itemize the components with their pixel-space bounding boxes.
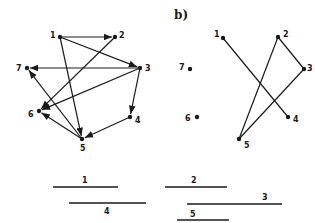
graph-b-node-1 — [221, 36, 225, 40]
graph-a-node-3 — [138, 66, 142, 70]
interval-label-4: 4 — [104, 207, 110, 216]
graph-b-edge-2-5 — [239, 37, 278, 139]
graph-b-node-label-3: 3 — [307, 64, 313, 73]
graph-b-node-label-2: 2 — [283, 30, 289, 39]
graph-a-node-2 — [113, 35, 117, 39]
interval-label-2: 2 — [191, 176, 197, 185]
graph-a-node-6 — [37, 109, 41, 113]
graph-a-node-1 — [58, 35, 62, 39]
graph-a-node-7 — [25, 66, 29, 70]
graph-a-edge-5-6 — [42, 113, 82, 139]
graph-a-node-label-1: 1 — [50, 31, 56, 40]
graph-b-node-2 — [276, 35, 280, 39]
graph-b-node-4 — [286, 115, 290, 119]
graph-a-node-label-6: 6 — [28, 110, 34, 119]
interval-diagram: 14235 — [53, 176, 282, 220]
interval-label-1: 1 — [82, 176, 88, 185]
graph-b-node-label-7: 7 — [179, 63, 185, 72]
panel-b-label: b) — [174, 8, 188, 22]
graph-a-node-4 — [128, 115, 132, 119]
graph-b-node-label-1: 1 — [214, 30, 220, 39]
graph-b-edge-2-3 — [278, 37, 304, 69]
graph-b-node-5 — [237, 137, 241, 141]
graph-a-edge-1-3 — [60, 37, 137, 67]
graph-a-node-label-7: 7 — [16, 64, 22, 73]
graph-a-node-5 — [80, 137, 84, 141]
graph-a-edge-1-5 — [60, 37, 81, 136]
graph-b-node-6 — [195, 115, 199, 119]
directed-graph-a: 1234567 — [16, 31, 151, 153]
graph-b-node-7 — [188, 67, 192, 71]
interval-label-5: 5 — [190, 210, 196, 219]
graph-b-node-label-6: 6 — [185, 114, 191, 123]
graph-a-node-label-5: 5 — [80, 144, 86, 153]
graph-b-node-label-5: 5 — [244, 141, 250, 150]
interval-label-3: 3 — [262, 193, 268, 202]
graph-a-node-label-3: 3 — [145, 64, 151, 73]
graph-b-edge-3-5 — [239, 69, 304, 139]
graph-b-node-label-4: 4 — [293, 115, 299, 124]
graph-b-edge-1-4 — [223, 38, 288, 117]
graph-a-node-label-4: 4 — [135, 116, 141, 125]
graph-a-edge-3-6 — [42, 68, 140, 110]
graph-b-node-3 — [302, 67, 306, 71]
graph-a-edge-3-4 — [131, 68, 140, 114]
diagram-canvas: b) 1234567 1234567 14235 — [0, 0, 315, 223]
graph-a-node-label-2: 2 — [119, 31, 125, 40]
graph-a-edge-4-5 — [85, 117, 130, 138]
undirected-graph-b: 1234567 — [179, 30, 313, 150]
graph-a-edge-2-6 — [41, 37, 115, 109]
